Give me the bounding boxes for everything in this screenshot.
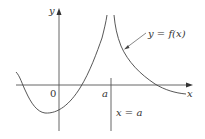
curve-right-branch	[114, 15, 186, 94]
asymptote-tick-label: a	[102, 88, 108, 99]
curve-equation-label: y = f(x)	[147, 28, 186, 39]
curve-left-branch	[16, 15, 107, 113]
function-graph-figure: y x 0 a x = a y = f(x)	[0, 0, 205, 139]
curve-label-leader	[126, 33, 146, 48]
x-axis-label: x	[187, 88, 193, 99]
origin-label: 0	[50, 88, 56, 99]
y-axis-arrow-icon	[57, 8, 62, 15]
x-axis	[16, 83, 193, 88]
y-axis-label: y	[48, 5, 55, 16]
y-axis	[57, 8, 62, 131]
asymptote-equation-label: x = a	[116, 107, 142, 118]
x-axis-arrow-icon	[186, 83, 193, 88]
